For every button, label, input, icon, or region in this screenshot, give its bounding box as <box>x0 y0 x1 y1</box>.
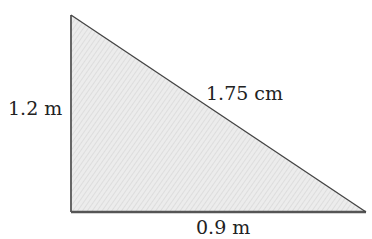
vertical-side-label: 1.2 m <box>8 99 62 118</box>
hypotenuse-label: 1.75 cm <box>206 84 283 103</box>
base-label: 0.9 m <box>196 218 250 237</box>
triangle-diagram: 1.2 m 1.75 cm 0.9 m <box>0 0 372 239</box>
triangle-figure <box>0 0 372 239</box>
